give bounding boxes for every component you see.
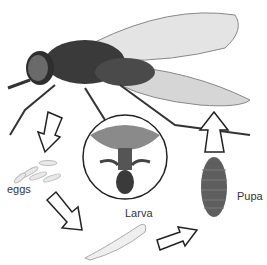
head-inset xyxy=(83,115,167,199)
label-eggs: eggs xyxy=(7,183,31,195)
larva-icon xyxy=(85,224,146,260)
label-larva: Larva xyxy=(125,207,153,219)
fly-life-cycle-diagram: eggs Larva Pupa xyxy=(0,0,267,265)
arrow-adult-to-eggs-icon xyxy=(38,112,62,152)
diagram-artwork xyxy=(0,0,267,265)
arrow-larva-to-pupa-icon xyxy=(157,227,197,250)
arrow-eggs-to-larva-icon xyxy=(47,192,82,230)
label-pupa: Pupa xyxy=(237,190,263,202)
eggs-icon xyxy=(13,161,61,185)
